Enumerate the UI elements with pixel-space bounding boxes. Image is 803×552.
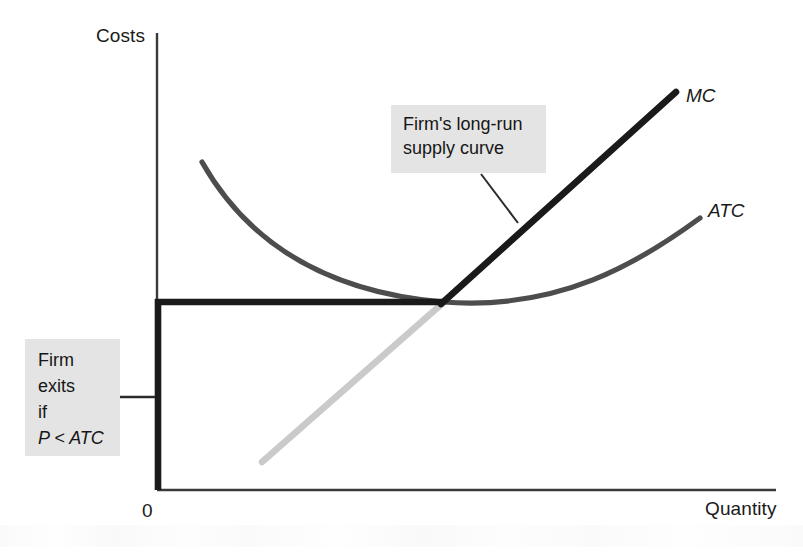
exit-callout-condition: P < ATC <box>38 426 120 452</box>
exit-callout-line-1: Firm <box>38 348 120 374</box>
atc-curve <box>202 162 700 303</box>
atc-curve-label: ATC <box>708 200 745 222</box>
supply-callout-leader-line <box>481 174 518 223</box>
supply-curve-callout: Firm's long-run supply curve <box>391 105 546 173</box>
supply-callout-line-1: Firm's long-run <box>403 113 546 137</box>
exit-callout-line-3: if <box>38 400 120 426</box>
mc-curve-faded-segment <box>262 302 444 462</box>
x-axis-label: Quantity <box>705 498 777 520</box>
firm-exits-callout: Firm exits if P < ATC <box>25 339 120 456</box>
mc-curve-label: MC <box>686 85 716 107</box>
economics-figure: Costs Quantity 0 MC ATC Firm's long-run … <box>0 0 803 552</box>
diagram-canvas <box>0 0 803 552</box>
exit-callout-line-2: exits <box>38 374 120 400</box>
y-axis-label: Costs <box>96 25 145 47</box>
origin-label: 0 <box>142 500 153 522</box>
supply-callout-line-2: supply curve <box>403 137 546 161</box>
